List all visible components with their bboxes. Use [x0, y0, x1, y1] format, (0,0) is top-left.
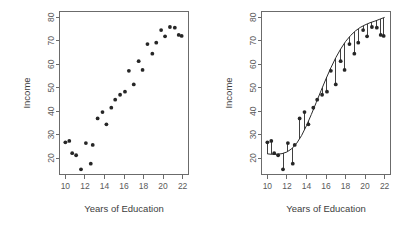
- y-axis-title-left: Income: [21, 77, 32, 108]
- data-point: [361, 28, 365, 32]
- data-point: [137, 59, 141, 63]
- x-tick-label: 16: [119, 181, 129, 191]
- y-axis-ticks-right: 20304050607080: [249, 12, 262, 162]
- figure-container: 10121416182022 20304050607080 Years of E…: [0, 0, 404, 228]
- data-points-left: [63, 25, 183, 171]
- x-tick-label: 14: [100, 181, 110, 191]
- data-point: [339, 59, 343, 63]
- x-axis-title-left: Years of Education: [84, 203, 163, 214]
- data-point: [272, 151, 276, 155]
- x-tick-label: 18: [139, 181, 149, 191]
- y-tick-label: 70: [47, 36, 57, 46]
- scatter-panel-right: 10121416182022 20304050607080 Years of E…: [202, 0, 404, 228]
- x-tick-label: 12: [80, 181, 90, 191]
- data-point: [281, 167, 285, 171]
- data-point: [334, 83, 338, 87]
- y-tick-label: 30: [47, 130, 57, 140]
- data-point: [293, 143, 297, 147]
- data-point: [150, 52, 154, 56]
- data-point: [370, 25, 374, 29]
- x-tick-label: 16: [321, 181, 331, 191]
- data-point: [146, 42, 150, 46]
- data-point: [118, 93, 122, 97]
- y-tick-label: 20: [47, 153, 57, 163]
- x-tick-label: 10: [61, 181, 71, 191]
- data-point: [303, 110, 307, 114]
- data-point: [265, 140, 269, 144]
- x-tick-label: 10: [263, 181, 273, 191]
- data-point: [286, 141, 290, 145]
- data-point: [375, 26, 379, 30]
- data-point: [315, 98, 319, 102]
- data-point: [154, 41, 158, 45]
- data-point: [298, 117, 302, 121]
- y-tick-label: 50: [47, 83, 57, 93]
- data-points-right: [265, 25, 385, 171]
- data-point: [180, 34, 184, 38]
- data-point: [343, 68, 347, 72]
- data-point: [127, 69, 131, 73]
- x-axis-ticks-left: 10121416182022: [61, 175, 188, 191]
- y-tick-label: 30: [249, 130, 259, 140]
- data-point: [101, 110, 105, 114]
- data-point: [329, 69, 333, 73]
- x-tick-label: 22: [178, 181, 188, 191]
- x-tick-label: 20: [360, 181, 370, 191]
- data-point: [79, 167, 83, 171]
- data-point: [96, 117, 100, 121]
- data-point: [382, 34, 386, 38]
- data-point: [325, 90, 329, 94]
- data-point: [105, 122, 109, 126]
- x-axis-title-right: Years of Education: [286, 203, 365, 214]
- data-point: [74, 153, 78, 157]
- data-point: [291, 162, 295, 166]
- scatter-panel-left: 10121416182022 20304050607080 Years of E…: [0, 0, 202, 228]
- data-point: [70, 151, 74, 155]
- data-point: [173, 26, 177, 30]
- data-point: [269, 139, 273, 143]
- x-axis-ticks-right: 10121416182022: [263, 175, 390, 191]
- y-tick-label: 50: [249, 83, 259, 93]
- data-point: [123, 90, 127, 94]
- residual-lines-right: [267, 18, 383, 170]
- data-point: [109, 106, 113, 110]
- data-point: [276, 153, 280, 157]
- data-point: [320, 93, 324, 97]
- data-point: [132, 83, 136, 87]
- data-point: [168, 25, 172, 29]
- data-point: [113, 98, 117, 102]
- data-point: [311, 106, 315, 110]
- data-point: [141, 68, 145, 72]
- data-point: [84, 141, 88, 145]
- data-point: [365, 34, 369, 38]
- y-tick-label: 40: [249, 106, 259, 116]
- x-tick-label: 18: [341, 181, 351, 191]
- y-axis-ticks-left: 20304050607080: [47, 12, 60, 162]
- y-tick-label: 60: [249, 59, 259, 69]
- x-tick-label: 14: [302, 181, 312, 191]
- data-point: [163, 34, 167, 38]
- data-point: [356, 41, 360, 45]
- y-tick-label: 20: [249, 153, 259, 163]
- y-tick-label: 70: [249, 36, 259, 46]
- x-tick-label: 22: [380, 181, 390, 191]
- y-axis-title-right: Income: [223, 77, 234, 108]
- x-tick-label: 20: [158, 181, 168, 191]
- data-point: [159, 28, 163, 32]
- data-point: [91, 143, 95, 147]
- y-tick-label: 40: [47, 106, 57, 116]
- data-point: [352, 52, 356, 56]
- data-point: [307, 122, 311, 126]
- data-point: [348, 42, 352, 46]
- y-tick-label: 80: [47, 12, 57, 22]
- x-tick-label: 12: [282, 181, 292, 191]
- y-tick-label: 80: [249, 12, 259, 22]
- data-point: [89, 162, 93, 166]
- data-point: [63, 140, 67, 144]
- data-point: [67, 139, 71, 143]
- y-tick-label: 60: [47, 59, 57, 69]
